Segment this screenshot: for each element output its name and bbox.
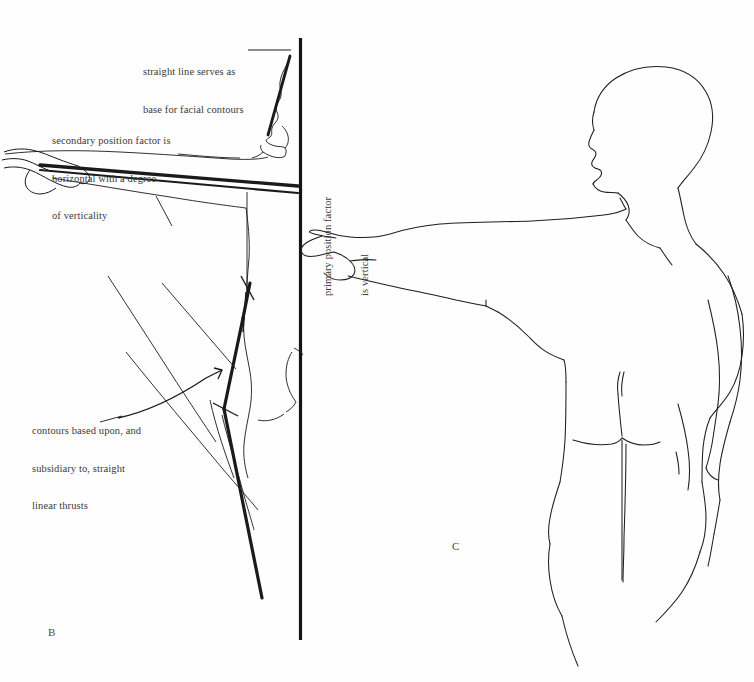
contours-note: contours based upon, and subsidiary to, … [32, 400, 141, 538]
arrow-up-right-icon [206, 368, 222, 379]
leg-outline-contour [210, 400, 254, 530]
right-side-brace-contour [258, 348, 303, 421]
armpit-contour [498, 312, 566, 382]
shoulder-contour [660, 244, 742, 314]
right-leg-contour [656, 552, 700, 622]
figure-c-drawing [301, 66, 743, 666]
hand-at-side-contour [708, 534, 714, 566]
facial-base-thrust-line [268, 56, 290, 135]
inner-thigh-line [622, 440, 626, 582]
figure-artwork [0, 0, 754, 682]
contours-note-line-2: subsidiary to, straight [32, 463, 141, 476]
primary-position-note-line-2: is vertical [359, 218, 371, 296]
side-crease-contour [678, 404, 690, 490]
hip-gluteal-contour [549, 482, 707, 616]
ear-and-jaw-contour [618, 193, 629, 220]
primary-position-note: primary position factor is vertical [297, 218, 396, 296]
thigh-detail-lines [676, 452, 679, 474]
torso-outline-contour [244, 300, 252, 478]
gluteal-fold-contour [573, 438, 660, 445]
secondary-position-note-line-2: horizontal with a degree [52, 173, 171, 186]
secondary-position-note: secondary position factor is horizontal … [52, 110, 171, 248]
page-canvas: straight line serves as base for facial … [0, 0, 754, 682]
left-leg-contour [562, 616, 578, 666]
torso-left-contour [549, 382, 567, 544]
primary-position-note-line-1: primary position factor [322, 218, 334, 296]
head-contour [593, 66, 713, 188]
gluteal-cleft-contour [618, 372, 624, 436]
jaw-neck-contour [252, 152, 263, 158]
straight-line-note-line-1: straight line serves as [143, 66, 244, 79]
figure-label-b: B [48, 626, 55, 638]
contours-note-line-1: contours based upon, and [32, 425, 141, 438]
secondary-position-note-line-3: of verticality [52, 210, 171, 223]
face-profile-contour-c [589, 130, 618, 193]
neck-contour [626, 188, 696, 248]
contours-note-line-3: linear thrusts [32, 500, 141, 513]
secondary-position-note-line-1: secondary position factor is [52, 135, 171, 148]
figure-label-c: C [452, 540, 459, 552]
hanging-arm-inner-contour [706, 300, 720, 480]
hip-diagonal-construction [162, 283, 236, 369]
